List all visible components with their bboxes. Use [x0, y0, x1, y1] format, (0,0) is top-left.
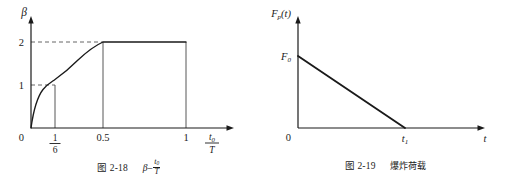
- figure-2-19-panel: F0 0 t1 t Fp(t) 图 2-19 爆炸荷载: [257, 0, 514, 186]
- origin-label: 0: [286, 132, 291, 143]
- y-tick-label-1: 1: [19, 80, 24, 91]
- y-axis-label: β: [20, 6, 27, 19]
- figure-2-18-panel: 2 1 0 1 6 0.5 1 β t0 T: [0, 0, 257, 186]
- x-axis-arrow-icon: [227, 125, 235, 130]
- figure-2-19-caption-label: 图 2-19: [345, 161, 376, 171]
- figure-2-19-caption-title: 爆炸荷载: [390, 161, 426, 171]
- figure-sheet: 2 1 0 1 6 0.5 1 β t0 T: [0, 0, 514, 186]
- y-axis-arrow-icon: [295, 16, 300, 24]
- blast-decay-line: [298, 56, 405, 128]
- x-axis-label: t0 T: [205, 132, 219, 155]
- x-axis-label-numerator: t0: [209, 132, 216, 143]
- y-axis-arrow-icon: [28, 16, 33, 24]
- figure-2-18-caption-fraction: t0T: [153, 158, 160, 176]
- figure-2-19-caption: 图 2-19 爆炸荷载: [257, 158, 514, 172]
- figure-2-18-caption-label: 图 2-18: [97, 163, 128, 173]
- x-tick-label-t1: t1: [402, 133, 408, 146]
- caption-dash: –: [147, 163, 152, 173]
- x-tick-label-half: 0.5: [96, 132, 109, 143]
- x-tick-label-one: 1: [183, 132, 188, 143]
- origin-label: 0: [19, 132, 24, 143]
- x-axis-label: t: [484, 133, 488, 144]
- x-tick-label-one-sixth: 1 6: [50, 133, 61, 155]
- x-tick-one-sixth-numerator: 1: [53, 133, 58, 143]
- f0-level-label: F0: [280, 51, 291, 64]
- x-axis-arrow-icon: [478, 125, 486, 130]
- x-axis-label-denominator: T: [209, 145, 215, 155]
- blast-load-plot: F0 0 t1 t Fp(t): [257, 0, 514, 160]
- figure-2-18-caption: 图 2-18 β–t0T: [0, 158, 257, 176]
- x-tick-one-sixth-denominator: 6: [53, 145, 58, 155]
- beta-ratio-plot: 2 1 0 1 6 0.5 1 β t0 T: [0, 0, 257, 160]
- y-axis-label: Fp(t): [270, 8, 291, 21]
- y-tick-label-2: 2: [19, 37, 24, 48]
- caption-fraction-denominator: T: [153, 168, 160, 176]
